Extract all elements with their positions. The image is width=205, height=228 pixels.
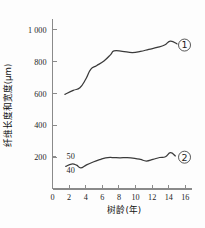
series-lines [65,41,177,168]
series-badge-1: 1 [179,39,191,51]
x-tick-label: 0 [50,193,54,202]
x-tick-label: 16 [181,193,189,202]
secondary-annotation: 50 [67,152,75,161]
x-tick-label: 12 [148,193,156,202]
x-tick-label: 10 [131,193,139,202]
x-tick-label: 6 [100,193,104,202]
x-tick-label: 2 [67,193,71,202]
secondary-annotation-label: 40 [67,166,75,175]
x-tick-label: 14 [165,193,173,202]
line-chart-canvas: 2004006008001 000 0246810121416 5040 12 … [0,0,205,228]
chart-figure: 2004006008001 000 0246810121416 5040 12 … [0,0,205,228]
y-tick-label: 200 [34,153,46,162]
y-tick-label: 1 000 [28,26,46,35]
x-axis-ticks [53,185,186,189]
series-badge-label: 2 [182,152,188,163]
series-line-1 [65,41,177,94]
x-axis-tick-labels: 0246810121416 [50,193,189,202]
y-axis-tick-labels: 2004006008001 000 [28,26,46,162]
series-badges: 12 [179,39,191,163]
series-line-2 [66,153,176,168]
y-tick-label: 600 [34,90,46,99]
x-axis-title: 树龄(年) [107,204,141,215]
series-badge-label: 1 [182,39,188,50]
y-axis-title: 纤维长度和宽度(μm) [2,64,13,148]
secondary-annotation: 40 [67,166,75,175]
y-tick-label: 400 [34,121,46,130]
x-tick-label: 4 [84,193,88,202]
y-tick-label: 800 [34,58,46,67]
secondary-annotation-label: 50 [67,152,75,161]
x-tick-label: 8 [117,193,121,202]
series-badge-2: 2 [179,151,191,163]
y-axis-ticks [53,30,57,157]
